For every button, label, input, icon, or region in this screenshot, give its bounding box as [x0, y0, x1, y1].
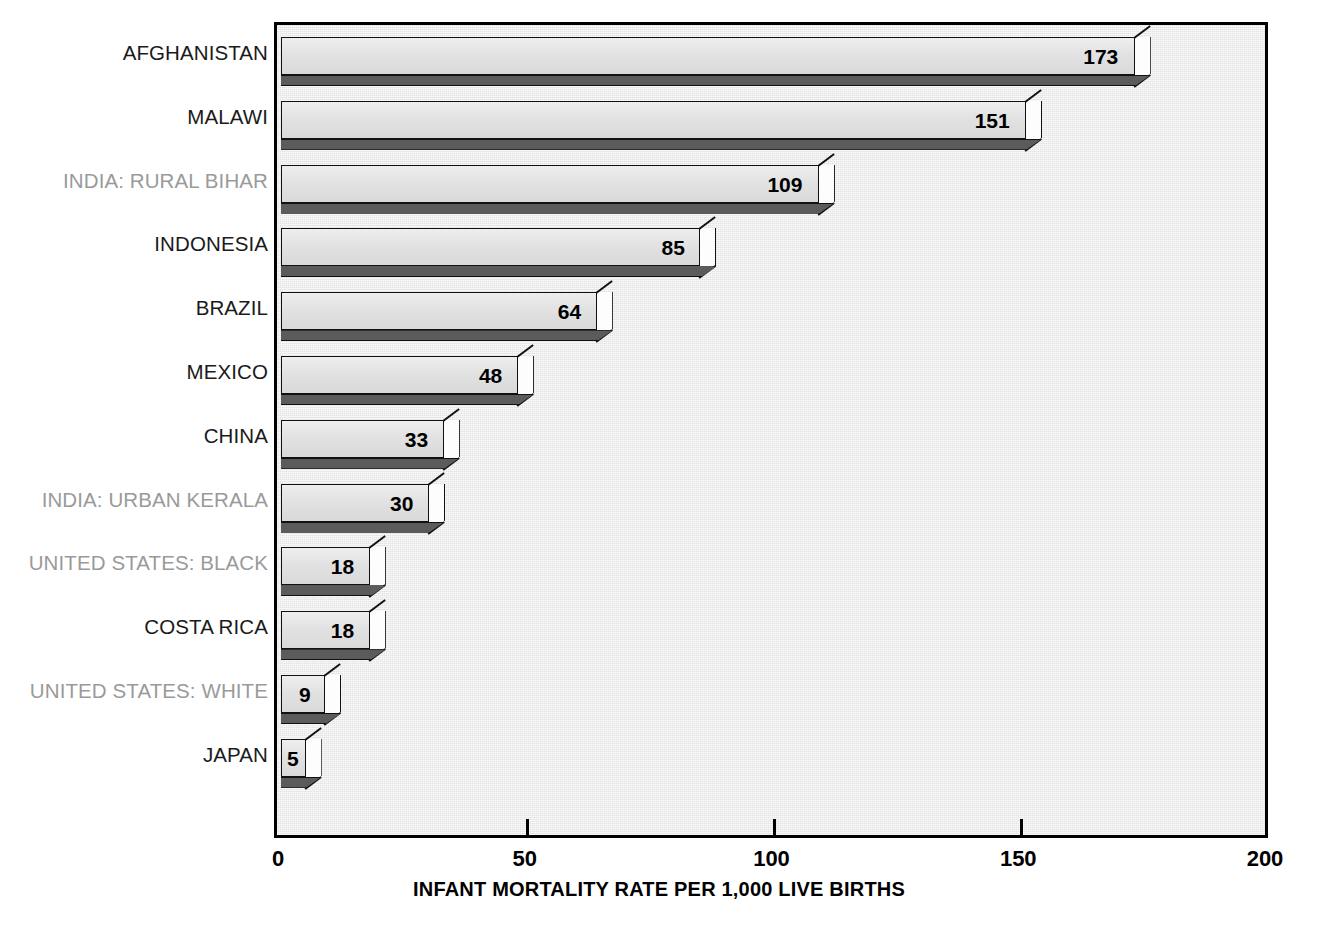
- bar-shadow: [281, 203, 835, 214]
- category-label-10: UNITED STATES: WHITE: [30, 681, 268, 702]
- x-tick-100: [773, 819, 776, 835]
- bar-9[interactable]: 18: [281, 611, 386, 672]
- x-tick-50: [526, 819, 529, 835]
- bar-shadow: [281, 394, 534, 405]
- bar-7[interactable]: 30: [281, 484, 445, 545]
- bar-11[interactable]: 5: [281, 739, 322, 800]
- bar-shadow: [281, 330, 613, 341]
- bar-front-face: [281, 101, 1026, 139]
- category-label-0: AFGHANISTAN: [123, 43, 268, 64]
- bar-front-face: [281, 292, 597, 330]
- category-label-2: INDIA: RURAL BIHAR: [63, 171, 268, 192]
- bar-shadow: [281, 139, 1042, 150]
- bar-value-label: 48: [479, 365, 502, 386]
- bar-shadow: [281, 458, 460, 469]
- x-tick-label-0: 0: [272, 848, 284, 870]
- bar-value-label: 109: [767, 174, 802, 195]
- bar-value-label: 33: [405, 429, 428, 450]
- bar-shadow: [281, 266, 716, 277]
- bar-shadow: [281, 713, 341, 724]
- x-axis-title: INFANT MORTALITY RATE PER 1,000 LIVE BIR…: [0, 878, 1318, 901]
- x-tick-150: [1020, 819, 1023, 835]
- category-label-9: COSTA RICA: [144, 617, 268, 638]
- x-tick-label-200: 200: [1247, 848, 1284, 870]
- bar-value-label: 173: [1083, 46, 1118, 67]
- x-tick-label-100: 100: [753, 848, 790, 870]
- bar-front-face: [281, 37, 1135, 75]
- bar-shadow: [281, 522, 445, 533]
- infant-mortality-bar-chart: 1731511098564483330181895 AFGHANISTANMAL…: [0, 0, 1318, 925]
- category-label-1: MALAWI: [187, 107, 268, 128]
- bar-value-label: 151: [975, 110, 1010, 131]
- bar-5[interactable]: 48: [281, 356, 534, 417]
- category-label-8: UNITED STATES: BLACK: [29, 553, 268, 574]
- bar-shadow: [281, 649, 386, 660]
- bar-front-face: [281, 547, 370, 585]
- x-tick-label-50: 50: [513, 848, 537, 870]
- bar-value-label: 18: [331, 556, 354, 577]
- category-label-3: INDONESIA: [154, 234, 268, 255]
- plot-area: 1731511098564483330181895: [274, 22, 1268, 838]
- x-tick-label-150: 150: [1000, 848, 1037, 870]
- bar-value-label: 30: [390, 493, 413, 514]
- bar-value-label: 18: [331, 620, 354, 641]
- bar-shadow: [281, 585, 386, 596]
- bar-4[interactable]: 64: [281, 292, 613, 353]
- bar-value-label: 9: [299, 684, 311, 705]
- category-label-5: MEXICO: [187, 362, 268, 383]
- bar-front-face: [281, 165, 819, 203]
- bar-0[interactable]: 173: [281, 37, 1151, 98]
- bar-shadow: [281, 75, 1151, 86]
- bar-value-label: 5: [287, 748, 299, 769]
- bar-front-face: [281, 228, 700, 266]
- category-label-11: JAPAN: [203, 745, 268, 766]
- bar-6[interactable]: 33: [281, 420, 460, 481]
- bar-value-label: 64: [558, 301, 581, 322]
- category-label-4: BRAZIL: [196, 298, 268, 319]
- bar-1[interactable]: 151: [281, 101, 1042, 162]
- category-label-7: INDIA: URBAN KERALA: [42, 490, 268, 511]
- bar-shadow: [281, 777, 322, 788]
- bar-value-label: 85: [661, 237, 684, 258]
- bar-8[interactable]: 18: [281, 547, 386, 608]
- bar-front-face: [281, 611, 370, 649]
- category-label-6: CHINA: [204, 426, 268, 447]
- bar-2[interactable]: 109: [281, 165, 835, 226]
- bar-10[interactable]: 9: [281, 675, 341, 736]
- bar-3[interactable]: 85: [281, 228, 716, 289]
